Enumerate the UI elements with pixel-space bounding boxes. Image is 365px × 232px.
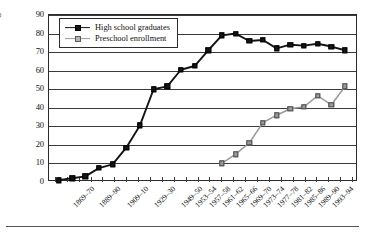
data-point-marker [329, 44, 334, 49]
data-point-marker [274, 112, 279, 117]
chart-legend: High school graduates Preschool enrollme… [59, 18, 178, 48]
y-axis-tick-label: 20 [0, 140, 44, 149]
data-point-marker [219, 33, 224, 38]
data-point-marker [83, 174, 88, 179]
data-point-marker [288, 106, 293, 111]
data-point-marker [342, 84, 347, 89]
data-point-marker [206, 48, 211, 53]
y-axis-tick-label: 40 [0, 103, 44, 112]
data-point-marker [192, 63, 197, 68]
y-axis-tick-label: 80 [0, 28, 44, 37]
y-axis-tick-label: 10 [0, 158, 44, 167]
legend-label: Preschool enrollment [95, 34, 166, 43]
data-point-marker [247, 38, 252, 43]
data-point-marker [274, 46, 279, 51]
footer-divider [6, 226, 359, 227]
x-axis-tick-label: 1909–10 [125, 185, 149, 209]
data-point-marker [315, 93, 320, 98]
y-axis-tick-label: 0 [0, 177, 44, 186]
data-point-marker [233, 31, 238, 36]
data-point-marker [315, 41, 320, 46]
data-point-marker [178, 67, 183, 72]
data-point-marker [151, 87, 156, 92]
data-point-marker [137, 123, 142, 128]
x-axis-tick-label: 1869–70 [71, 185, 95, 209]
y-axis-tick-label: 70 [0, 47, 44, 56]
y-axis-tick-label: 50 [0, 84, 44, 93]
data-point-marker [329, 102, 334, 107]
data-point-marker [301, 104, 306, 109]
data-point-marker [110, 162, 115, 167]
data-point-marker [56, 177, 61, 182]
y-axis-tick-label: 30 [0, 121, 44, 130]
x-axis-tick-label: 1929–30 [153, 185, 177, 209]
y-axis-tick-label: 90 [0, 10, 44, 19]
data-point-marker [233, 151, 238, 156]
chart-figure: Percentage 0102030405060708090 1869–7018… [0, 0, 365, 232]
legend-item-preschool-enrollment: Preschool enrollment [65, 33, 170, 44]
legend-item-high-school-graduates: High school graduates [65, 22, 170, 33]
y-axis-tick-label: 60 [0, 65, 44, 74]
data-point-marker [96, 165, 101, 170]
series-line [222, 86, 345, 163]
x-axis-tick-label: 1889–90 [98, 185, 122, 209]
data-point-marker [124, 145, 129, 150]
data-point-marker [301, 43, 306, 48]
data-point-marker [260, 120, 265, 125]
legend-swatch-icon [65, 34, 90, 43]
data-point-marker [288, 42, 293, 47]
legend-swatch-icon [65, 23, 90, 32]
data-point-marker [260, 37, 265, 42]
data-point-marker [247, 140, 252, 145]
data-point-marker [165, 84, 170, 89]
data-point-marker [342, 48, 347, 53]
data-point-marker [69, 176, 74, 181]
data-point-marker [219, 161, 224, 166]
legend-label: High school graduates [95, 23, 170, 32]
